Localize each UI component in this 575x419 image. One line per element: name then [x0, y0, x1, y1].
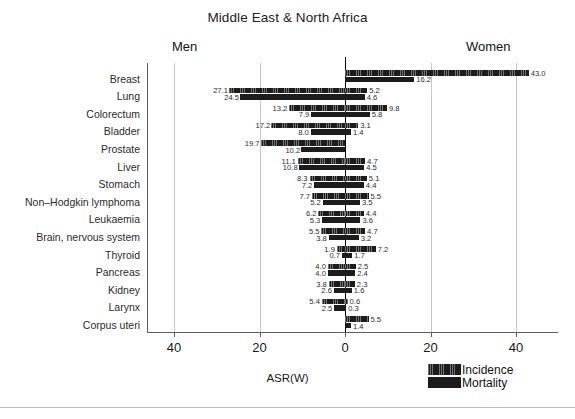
bar-right-incidence: [345, 211, 364, 217]
men-panel-label: Men: [172, 39, 197, 54]
bar-left-mortality: [322, 217, 345, 223]
bar-value-label: 4.6: [367, 94, 378, 101]
category-label: Leukaemia: [89, 213, 140, 225]
bar-right-mortality: [345, 288, 352, 294]
chart-legend: Incidence Mortality: [428, 363, 568, 389]
bar-left-mortality: [334, 288, 345, 294]
bar-value-label: 7.2: [298, 182, 312, 189]
bar-value-label: 9.8: [389, 105, 400, 112]
bar-value-label: 24.5: [224, 94, 238, 101]
bar-left-mortality: [311, 112, 345, 118]
bar-value-label: 19.7: [245, 140, 259, 147]
bar-right-mortality: [345, 129, 351, 135]
bar-value-label: 1.6: [354, 287, 365, 294]
bar-left-incidence: [310, 176, 345, 182]
bar-right-incidence: [345, 176, 367, 182]
gridline: [431, 63, 432, 332]
bar-left-incidence: [229, 88, 345, 94]
cancer-asr-diverging-bar-chart: Middle East & North Africa Men Women Bre…: [0, 0, 575, 419]
bar-left-incidence: [328, 264, 345, 270]
x-tick-label: 20: [423, 340, 437, 355]
footer-divider: [0, 407, 575, 408]
bar-value-label: 3.2: [361, 235, 372, 242]
category-label: Stomach: [99, 178, 140, 190]
bar-value-label: 1.7: [354, 252, 365, 259]
category-label: Breast: [110, 73, 140, 85]
category-label: Kidney: [108, 284, 140, 296]
bar-value-label: 10.2: [285, 147, 299, 154]
x-tick-mark: [174, 332, 175, 337]
x-tick-label: 40: [509, 340, 523, 355]
bar-value-label: 0.7: [326, 252, 340, 259]
bar-value-label: 4.4: [366, 182, 377, 189]
bar-right-mortality: [345, 200, 360, 206]
bar-left-mortality: [314, 182, 345, 188]
bar-left-mortality: [328, 270, 345, 276]
bar-right-mortality: [345, 165, 364, 171]
gridline: [174, 63, 175, 332]
bar-value-label: 5.3: [306, 217, 320, 224]
legend-item-incidence: Incidence: [428, 363, 568, 376]
bar-right-mortality: [345, 323, 351, 329]
x-tick-label: 40: [167, 340, 181, 355]
bar-right-mortality: [345, 270, 355, 276]
gridline: [516, 63, 517, 332]
bar-value-label: 43.0: [531, 70, 546, 77]
bar-value-label: 13.2: [273, 105, 287, 112]
bar-right-incidence: [345, 264, 356, 270]
bar-value-label: 8.0: [295, 129, 309, 136]
bar-value-label: 2.4: [357, 270, 368, 277]
bar-left-mortality: [323, 200, 345, 206]
bar-left-mortality: [301, 147, 345, 153]
chart-title: Middle East & North Africa: [0, 10, 575, 25]
women-panel-label: Women: [466, 39, 511, 54]
x-tick-label: 20: [252, 340, 266, 355]
bar-value-label: 3.8: [313, 235, 327, 242]
bar-value-label: 16.2: [416, 76, 431, 83]
legend-swatch-mortality: [428, 377, 461, 388]
bar-value-label: 1.4: [353, 323, 364, 330]
category-label: Thyroid: [105, 249, 140, 261]
bar-right-incidence: [345, 70, 529, 76]
bar-right-mortality: [345, 182, 364, 188]
category-label: Corpus uteri: [83, 319, 140, 331]
bar-value-label: 2.5: [318, 305, 332, 312]
category-axis-labels: BreastLungColorectumBladderProstateLiver…: [0, 63, 143, 332]
x-tick-label: 0: [341, 340, 348, 355]
bar-value-label: 3.6: [362, 217, 373, 224]
bar-value-label: 7.2: [378, 246, 389, 253]
category-label: Liver: [117, 161, 140, 173]
bar-value-label: 2.6: [318, 287, 332, 294]
bar-value-label: 5.5: [371, 316, 382, 323]
bar-left-incidence: [261, 140, 345, 146]
category-label: Bladder: [104, 125, 140, 137]
bar-right-mortality: [345, 77, 414, 83]
x-tick-mark: [345, 332, 346, 337]
category-label: Brain, nervous system: [36, 231, 140, 243]
bar-right-mortality: [345, 235, 359, 241]
bar-value-label: 0.3: [348, 305, 359, 312]
bar-value-label: 5.2: [307, 199, 321, 206]
bar-value-label: 4.5: [366, 164, 377, 171]
legend-swatch-incidence: [428, 364, 461, 375]
bar-right-mortality: [345, 253, 352, 259]
bar-left-incidence: [289, 105, 345, 111]
axis-left-spine: [147, 63, 148, 332]
category-label: Lung: [117, 90, 140, 102]
bar-right-incidence: [345, 158, 365, 164]
bar-left-mortality: [334, 305, 345, 311]
axis-bottom-spine: [147, 332, 558, 333]
legend-label-incidence: Incidence: [462, 364, 513, 376]
bar-right-mortality: [345, 112, 370, 118]
bar-right-incidence: [345, 299, 348, 305]
bar-value-label: 4.0: [312, 270, 326, 277]
bar-left-incidence: [318, 211, 345, 217]
plot-area: 43.016.227.124.55.24.613.27.99.85.817.28…: [147, 63, 558, 332]
bar-left-mortality: [299, 165, 345, 171]
category-label: Prostate: [101, 143, 140, 155]
bar-value-label: 3.5: [362, 199, 373, 206]
bar-right-incidence: [345, 88, 367, 94]
legend-label-mortality: Mortality: [462, 377, 507, 389]
x-tick-mark: [516, 332, 517, 337]
bar-right-mortality: [345, 305, 346, 311]
